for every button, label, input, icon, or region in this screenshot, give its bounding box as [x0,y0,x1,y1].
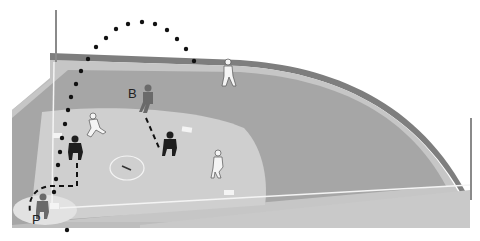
home-plate [50,203,59,209]
pitcher-label: P [32,212,41,227]
first-base [224,190,234,195]
batter-label: B [128,86,137,101]
baseball-field-diagram [0,0,480,241]
